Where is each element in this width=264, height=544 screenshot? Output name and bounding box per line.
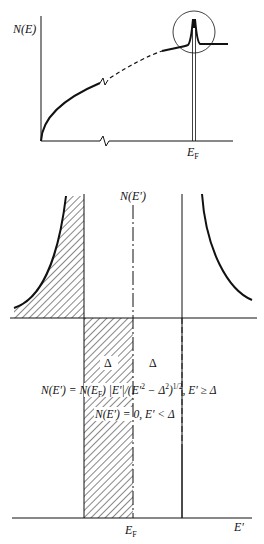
bottom-x-axis-label: E′ [233,520,244,534]
top-dos-curve-peak [162,19,228,51]
top-panel: N(E) EF [12,11,233,161]
dos-zero-condition: N(E′) = 0, E′ < Δ [94,408,175,421]
top-dos-curve-solid [41,83,100,141]
right-dos-curve [202,194,252,300]
fermi-peak-circle [173,11,215,53]
bottom-y-axis-label: N(E′) [119,189,146,203]
left-occupied-hatch [0,190,84,320]
top-x-axis [41,136,233,146]
bottom-panel: N(E′) Δ Δ N(E′) = N(EF) |E′|/(E′2 − Δ2)1… [0,189,257,539]
gap-label-right: Δ [149,356,157,370]
diagram-canvas: N(E) EF N(E′) Δ Δ [0,0,264,544]
top-curve-break [100,78,108,85]
top-y-axis-label: N(E) [12,22,36,36]
top-dos-curve-dashed [110,51,162,78]
gap-label-left: Δ [104,356,112,370]
bottom-fermi-label: EF [124,523,137,539]
top-fermi-label: EF [186,145,199,161]
